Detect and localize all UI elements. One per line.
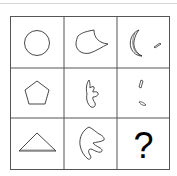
sliver-shape: [154, 43, 161, 48]
claw-blob-shape: [64, 118, 117, 170]
question-mark: ?: [117, 128, 170, 164]
cell-r2-c1: [64, 118, 117, 170]
hook-blob-shape: [64, 68, 117, 118]
cell-r2-c2-answer[interactable]: ?: [117, 118, 170, 170]
cell-r0-c0: [10, 16, 64, 68]
cell-r2-c0: [10, 118, 64, 170]
circle-shape: [10, 16, 64, 68]
top-rule: [0, 3, 177, 4]
teardrop-shape: [64, 16, 117, 68]
pentagon-shape: [10, 68, 64, 118]
two-slivers-shape: [117, 68, 170, 118]
puzzle-grid: ?: [10, 16, 170, 170]
cell-r0-c2: [117, 16, 170, 68]
triangle-shape: [10, 118, 64, 170]
crescent-shape: [117, 16, 170, 68]
cell-r1-c1: [64, 68, 117, 118]
cell-r0-c1: [64, 16, 117, 68]
cell-r1-c2: [117, 68, 170, 118]
cell-r1-c0: [10, 68, 64, 118]
